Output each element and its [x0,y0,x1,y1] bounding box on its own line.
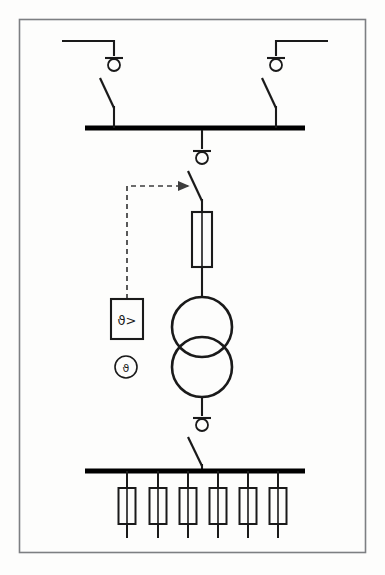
hv-disconnector-circle [196,152,208,164]
sensor-label: ϑ [123,362,130,375]
diagram-page: ϑ> ϑ [0,0,385,575]
lv-disconnector-circle [196,419,208,431]
relay-label: ϑ> [118,313,137,328]
single-line-diagram-canvas: ϑ> ϑ [0,0,385,575]
disconnector-circle-left [108,59,120,71]
disconnector-circle-right [270,59,282,71]
temperature-sensor[interactable]: ϑ [115,356,137,378]
upper-busbar [85,126,305,131]
thermal-overload-relay[interactable]: ϑ> [111,299,143,339]
lower-busbar [85,469,305,474]
